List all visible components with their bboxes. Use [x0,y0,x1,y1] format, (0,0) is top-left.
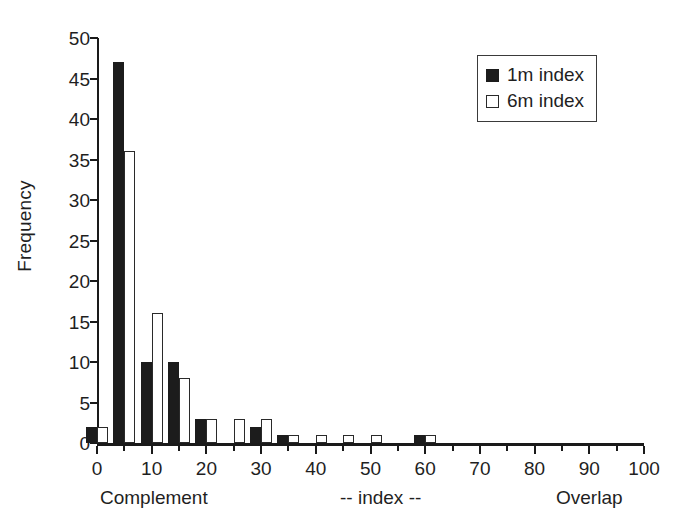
x-tick-label: 50 [341,458,401,480]
y-tick-label: 30 [30,191,90,210]
x-axis-caption-left: Complement [100,487,208,509]
x-tick-mark-minor [561,446,563,451]
x-tick-label: 100 [614,458,674,480]
bar-1m-index-35 [277,435,288,443]
frequency-histogram-figure: Frequency 50454035302520151050 010203040… [0,0,675,522]
bar-6m-index-60 [425,435,436,443]
x-tick-mark [96,446,98,454]
x-tick-mark-minor [233,446,235,451]
legend-label: 6m index [507,90,584,112]
x-tick-mark [151,446,153,454]
x-tick-mark-minor [123,446,125,451]
bar-1m-index-10 [141,362,152,443]
y-tick-label: 35 [30,150,90,169]
bar-6m-index-10 [152,313,163,443]
bar-6m-index-5 [124,151,135,443]
y-tick-label: 20 [30,272,90,291]
bar-6m-index-40 [316,435,327,443]
legend-item-1m-index: 1m index [486,62,584,88]
x-tick-mark [370,446,372,454]
x-tick-mark-minor [287,446,289,451]
y-tick-label: 25 [30,231,90,250]
bar-1m-index-15 [168,362,179,443]
x-tick-label: 40 [286,458,346,480]
x-tick-label: 20 [176,458,236,480]
x-tick-mark [260,446,262,454]
legend-label: 1m index [507,64,584,86]
x-tick-label: 90 [559,458,619,480]
x-tick-mark-minor [178,446,180,451]
x-tick-mark [479,446,481,454]
x-tick-mark-minor [397,446,399,451]
bar-6m-index-0 [97,427,108,443]
x-tick-mark [534,446,536,454]
y-tick-label: 0 [30,434,90,453]
x-tick-label: 0 [67,458,127,480]
x-tick-mark [643,446,645,454]
x-tick-label: 30 [231,458,291,480]
bar-1m-index-30 [250,427,261,443]
x-tick-mark [588,446,590,454]
chart-legend: 1m index6m index [477,55,597,122]
y-tick-label: 10 [30,353,90,372]
bar-6m-index-50 [371,435,382,443]
legend-item-6m-index: 6m index [486,88,584,114]
bar-6m-index-15 [179,378,190,443]
y-tick-label: 50 [30,29,90,48]
bar-6m-index-30 [261,419,272,443]
x-tick-label: 80 [505,458,565,480]
x-tick-mark-minor [452,446,454,451]
bar-1m-index-20 [195,419,206,443]
x-tick-mark-minor [616,446,618,451]
x-tick-mark [424,446,426,454]
legend-swatch-icon [486,69,499,82]
bar-1m-index-5 [113,62,124,443]
x-tick-label: 70 [450,458,510,480]
x-axis-caption-middle: -- index -- [340,487,421,509]
bar-6m-index-25 [234,419,245,443]
x-axis-caption-right: Overlap [556,487,623,509]
x-tick-mark [205,446,207,454]
x-tick-mark-minor [342,446,344,451]
y-tick-label: 40 [30,110,90,129]
x-tick-mark [315,446,317,454]
x-tick-label: 10 [122,458,182,480]
y-tick-label: 45 [30,69,90,88]
x-tick-label: 60 [395,458,455,480]
bar-6m-index-45 [343,435,354,443]
y-tick-label: 5 [30,393,90,412]
y-tick-label: 15 [30,312,90,331]
x-tick-mark-minor [506,446,508,451]
bar-6m-index-20 [206,419,217,443]
bar-1m-index-0 [86,427,97,443]
bar-1m-index-60 [414,435,425,443]
bar-6m-index-35 [288,435,299,443]
legend-swatch-icon [486,95,499,108]
